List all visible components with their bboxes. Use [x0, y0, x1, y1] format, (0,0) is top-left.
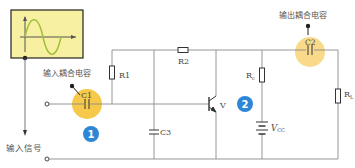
c1-label: C1 — [81, 91, 92, 100]
rc-label: Rc — [246, 71, 255, 81]
c3-label: C3 — [160, 128, 171, 137]
c2-label: C2 — [305, 38, 316, 47]
resistor-rc — [260, 68, 265, 82]
vcc-label: VCC — [271, 123, 285, 133]
r2-label: R2 — [178, 57, 189, 66]
battery-vcc — [256, 122, 268, 134]
input-coupling-cap-label: 输入耦合电容 — [43, 68, 91, 78]
amplifier-circuit-diagram: 输入信号 C1 输入耦合电容 — [0, 0, 355, 168]
output-coupling-cap-label: 输出耦合电容 — [279, 10, 327, 20]
arrow-down-icon — [23, 130, 27, 136]
input-signal-label: 输入信号 — [6, 143, 42, 153]
transistor-label: V — [219, 101, 226, 110]
resistor-r2 — [178, 48, 188, 53]
transistor-npn — [209, 96, 216, 112]
badge-1-number: 1 — [88, 129, 95, 140]
ground-terminal — [45, 157, 49, 161]
input-terminal — [45, 102, 49, 106]
capacitor-c3 — [149, 130, 159, 134]
rl-label: RL — [344, 90, 354, 100]
badge-2-number: 2 — [242, 99, 249, 110]
signal-source-box — [11, 10, 83, 58]
resistor-rl — [336, 89, 341, 103]
r1-label: R1 — [119, 71, 130, 80]
resistor-r1 — [110, 66, 115, 79]
